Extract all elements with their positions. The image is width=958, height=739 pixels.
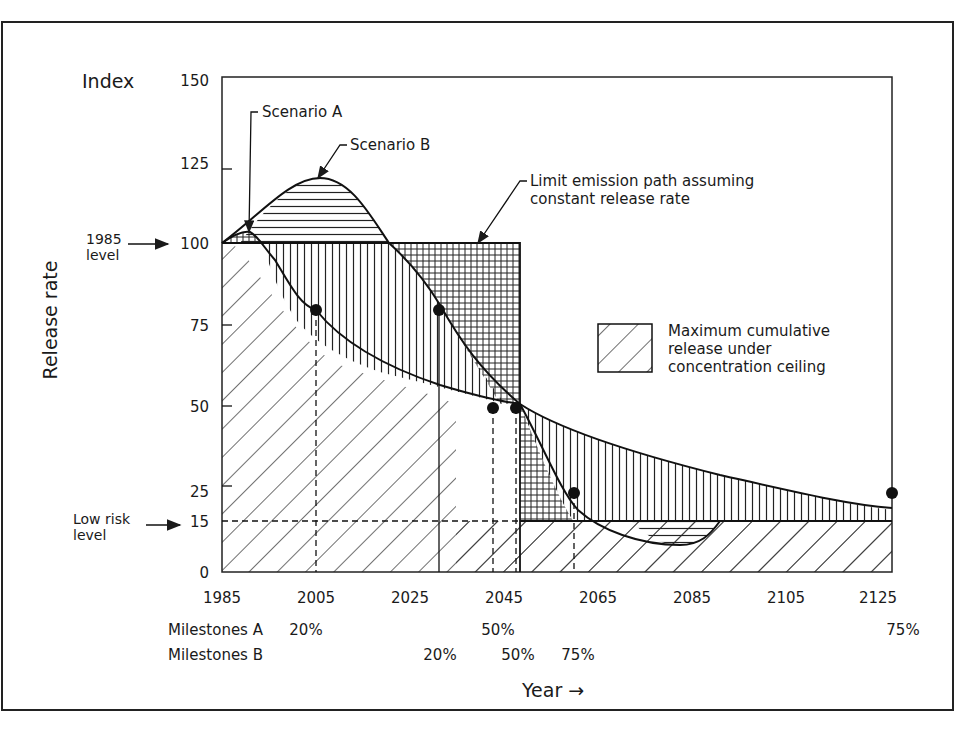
milestones-b-label: Milestones B	[168, 646, 263, 664]
y-tick-50: 50	[190, 398, 209, 416]
point-a-50	[487, 402, 499, 414]
point-b-50	[510, 402, 522, 414]
legend-swatch-diagonal-hatch	[598, 324, 652, 372]
x-axis-title: Year →	[521, 679, 584, 701]
limit-path-label-1: Limit emission path assuming	[530, 172, 754, 190]
x-tick-2105: 2105	[767, 589, 805, 607]
point-a-75	[886, 487, 898, 499]
x-tick-2125: 2125	[859, 589, 897, 607]
y-axis-title: Release rate	[39, 261, 61, 380]
point-b-75	[568, 487, 580, 499]
milestones-a-label: Milestones A	[168, 621, 264, 639]
legend-line-1: Maximum cumulative	[668, 322, 830, 340]
level-1985-label-2: level	[86, 247, 119, 263]
y-tick-25: 25	[190, 483, 209, 501]
milestones-table: Milestones A Milestones B 20% 50% 75% 20…	[168, 621, 920, 664]
scenario-a-excess-region	[520, 404, 892, 521]
y-tick-125: 125	[180, 155, 209, 173]
x-tick-2025: 2025	[391, 589, 429, 607]
y-tick-100: 100	[180, 235, 209, 253]
legend-line-3: concentration ceiling	[668, 358, 826, 376]
milestone-a-75: 75%	[886, 621, 919, 639]
milestone-b-75: 75%	[561, 646, 594, 664]
x-tick-2045: 2045	[485, 589, 523, 607]
low-risk-label-2: level	[73, 527, 106, 543]
level-1985-label-1: 1985	[86, 231, 122, 247]
point-b-20	[433, 304, 445, 316]
y-tick-75: 75	[190, 317, 209, 335]
x-tick-labels: 1985 2005 2025 2045 2065 2085 2105 2125	[203, 589, 897, 607]
x-tick-1985: 1985	[203, 589, 241, 607]
limit-path-pointer	[478, 181, 527, 243]
milestone-b-20: 20%	[423, 646, 456, 664]
milestone-b-50: 50%	[501, 646, 534, 664]
point-a-20	[310, 304, 322, 316]
y-tick-15: 15	[190, 513, 209, 531]
chart-figure: Index Release rate 150 125 100 75 50 25 …	[0, 0, 958, 739]
scenario-b-pointer	[318, 145, 347, 178]
y-tick-150: 150	[180, 72, 209, 90]
y-tick-labels: 150 125 100 75 50 25 15 0	[180, 72, 209, 582]
legend: Maximum cumulative release under concent…	[598, 322, 830, 376]
y-unit-label: Index	[82, 70, 134, 92]
y-tick-0: 0	[199, 564, 209, 582]
x-tick-2065: 2065	[579, 589, 617, 607]
x-tick-2005: 2005	[297, 589, 335, 607]
x-tick-2085: 2085	[673, 589, 711, 607]
low-risk-label-1: Low risk	[73, 511, 131, 527]
scenario-b-label: Scenario B	[350, 136, 430, 154]
milestone-a-50: 50%	[481, 621, 514, 639]
scenario-a-label: Scenario A	[262, 103, 343, 121]
milestone-a-20: 20%	[289, 621, 322, 639]
legend-line-2: release under	[668, 340, 772, 358]
limit-path-label-2: constant release rate	[530, 190, 690, 208]
